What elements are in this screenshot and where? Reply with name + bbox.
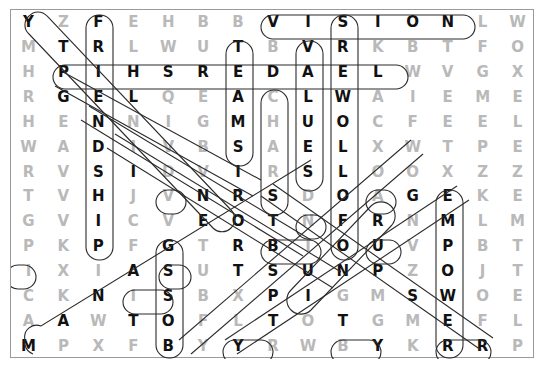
letter-cell[interactable]: G — [46, 85, 81, 110]
letter-cell[interactable]: I — [290, 10, 325, 35]
letter-cell[interactable]: M — [430, 209, 465, 234]
letter-cell[interactable]: B — [186, 135, 221, 160]
letter-cell[interactable]: T — [46, 35, 81, 60]
letter-cell[interactable]: A — [360, 85, 395, 110]
letter-cell[interactable]: R — [325, 35, 360, 60]
letter-cell[interactable]: R — [221, 234, 256, 259]
letter-cell[interactable]: I — [81, 259, 116, 284]
letter-cell[interactable]: S — [151, 60, 186, 85]
letter-cell[interactable]: H — [151, 10, 186, 35]
letter-cell[interactable]: Y — [11, 10, 46, 35]
letter-cell[interactable]: E — [430, 110, 465, 135]
letter-cell[interactable]: P — [430, 234, 465, 259]
letter-cell[interactable]: F — [465, 35, 500, 60]
letter-cell[interactable]: B — [151, 334, 186, 359]
letter-cell[interactable]: E — [325, 60, 360, 85]
letter-cell[interactable]: V — [46, 209, 81, 234]
letter-cell[interactable]: M — [221, 110, 256, 135]
letter-cell[interactable]: G — [11, 209, 46, 234]
letter-cell[interactable]: F — [325, 209, 360, 234]
letter-cell[interactable]: W — [430, 284, 465, 309]
letter-cell[interactable]: V — [395, 234, 430, 259]
letter-cell[interactable]: N — [116, 110, 151, 135]
letter-cell[interactable]: O — [325, 234, 360, 259]
letter-cell[interactable]: E — [500, 185, 535, 210]
letter-cell[interactable]: N — [81, 110, 116, 135]
letter-cell[interactable]: C — [256, 85, 291, 110]
letter-cell[interactable]: C — [11, 284, 46, 309]
letter-cell[interactable]: S — [256, 259, 291, 284]
letter-cell[interactable]: V — [46, 185, 81, 210]
letter-cell[interactable]: D — [256, 60, 291, 85]
letter-cell[interactable]: E — [500, 135, 535, 160]
letter-cell[interactable]: L — [221, 309, 256, 334]
letter-cell[interactable]: I — [81, 60, 116, 85]
letter-cell[interactable]: O — [325, 110, 360, 135]
letter-cell[interactable]: G — [395, 185, 430, 210]
letter-cell[interactable]: P — [11, 234, 46, 259]
letter-cell[interactable]: S — [151, 259, 186, 284]
letter-cell[interactable]: W — [500, 10, 535, 35]
letter-cell[interactable]: N — [430, 10, 465, 35]
letter-cell[interactable]: B — [256, 35, 291, 60]
letter-cell[interactable]: R — [256, 160, 291, 185]
letter-cell[interactable]: J — [465, 259, 500, 284]
letter-cell[interactable]: R — [81, 35, 116, 60]
letter-cell[interactable]: K — [395, 334, 430, 359]
letter-cell[interactable]: T — [221, 35, 256, 60]
letter-cell[interactable]: V — [430, 60, 465, 85]
letter-cell[interactable]: W — [395, 60, 430, 85]
letter-cell[interactable]: T — [116, 309, 151, 334]
letter-cell[interactable]: S — [221, 135, 256, 160]
letter-cell[interactable]: L — [325, 135, 360, 160]
letter-cell[interactable]: X — [81, 334, 116, 359]
letter-cell[interactable]: K — [360, 35, 395, 60]
letter-cell[interactable]: H — [256, 110, 291, 135]
letter-cell[interactable]: W — [290, 334, 325, 359]
letter-cell[interactable]: S — [151, 284, 186, 309]
letter-cell[interactable]: L — [325, 160, 360, 185]
letter-cell[interactable]: L — [360, 60, 395, 85]
letter-cell[interactable]: N — [81, 284, 116, 309]
letter-cell[interactable]: U — [290, 259, 325, 284]
letter-cell[interactable]: E — [465, 110, 500, 135]
letter-cell[interactable]: C — [360, 110, 395, 135]
letter-cell[interactable]: I — [395, 85, 430, 110]
letter-cell[interactable]: X — [46, 259, 81, 284]
letter-cell[interactable]: V — [186, 160, 221, 185]
letter-cell[interactable]: R — [221, 185, 256, 210]
letter-cell[interactable]: R — [11, 85, 46, 110]
letter-cell[interactable]: V — [151, 135, 186, 160]
letter-cell[interactable]: E — [430, 185, 465, 210]
letter-cell[interactable]: U — [186, 35, 221, 60]
letter-cell[interactable]: M — [11, 334, 46, 359]
letter-cell[interactable]: A — [116, 259, 151, 284]
letter-cell[interactable]: N — [290, 209, 325, 234]
letter-cell[interactable]: Z — [46, 10, 81, 35]
letter-cell[interactable]: B — [186, 10, 221, 35]
letter-cell[interactable]: T — [500, 234, 535, 259]
letter-cell[interactable]: O — [395, 160, 430, 185]
letter-cell[interactable]: Z — [465, 160, 500, 185]
letter-cell[interactable]: H — [116, 60, 151, 85]
letter-cell[interactable]: E — [81, 85, 116, 110]
letter-cell[interactable]: P — [46, 334, 81, 359]
letter-cell[interactable]: B — [325, 334, 360, 359]
letter-cell[interactable]: O — [500, 35, 535, 60]
letter-grid[interactable]: YZFEHBBVISIONLWMTRLWUTBVRKBTFOHPIHSREDAE… — [11, 10, 535, 359]
letter-cell[interactable]: M — [11, 35, 46, 60]
letter-cell[interactable]: X — [430, 160, 465, 185]
letter-cell[interactable]: F — [81, 10, 116, 35]
letter-cell[interactable]: S — [290, 160, 325, 185]
letter-cell[interactable]: T — [256, 309, 291, 334]
letter-cell[interactable]: A — [256, 135, 291, 160]
letter-cell[interactable]: T — [430, 135, 465, 160]
letter-cell[interactable]: O — [430, 259, 465, 284]
letter-cell[interactable]: P — [81, 234, 116, 259]
letter-cell[interactable]: S — [325, 10, 360, 35]
letter-cell[interactable]: I — [151, 110, 186, 135]
letter-cell[interactable]: L — [290, 85, 325, 110]
letter-cell[interactable]: O — [465, 284, 500, 309]
letter-cell[interactable]: U — [360, 234, 395, 259]
letter-cell[interactable]: X — [221, 284, 256, 309]
